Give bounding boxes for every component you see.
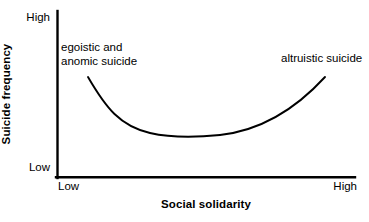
chart-canvas: Suicide frequency High Low Low High Soci… [0, 0, 369, 222]
annotation-altruistic-suicide: altruistic suicide [281, 52, 362, 66]
annotation-left-line1: egoistic and [61, 41, 122, 53]
y-axis-tick-low: Low [0, 161, 50, 175]
annotation-left-line2: anomic suicide [61, 55, 137, 67]
y-axis-tick-high: High [0, 11, 50, 25]
y-axis-title: Suicide frequency [0, 14, 22, 174]
x-axis-tick-low: Low [58, 180, 79, 194]
annotation-egoistic-anomic-suicide: egoistic andanomic suicide [61, 41, 137, 68]
x-axis-tick-high: High [305, 180, 357, 194]
suicide-frequency-curve [88, 77, 325, 137]
x-axis-title: Social solidarity [57, 198, 355, 212]
